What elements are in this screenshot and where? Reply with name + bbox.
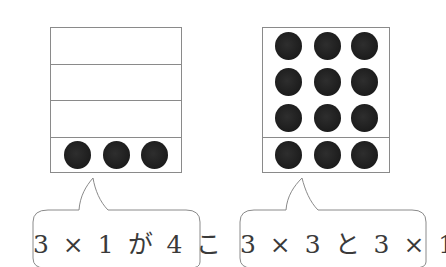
right-caption: 3 × 3 と 3 × 1 xyxy=(240,224,426,260)
right-panel: 3 × 3 と 3 × 1 xyxy=(0,0,446,267)
